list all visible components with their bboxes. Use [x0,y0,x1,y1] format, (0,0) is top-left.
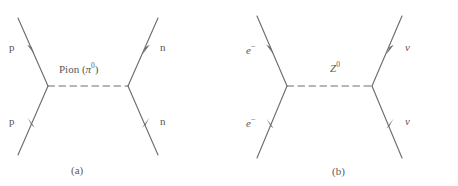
panel-b-lines [229,0,458,186]
panel-caption-a: (a) [71,165,83,176]
fermion-line-upper-right [128,18,158,86]
fermion-line-lower-left [18,86,48,155]
propagator-label-pion: Pion (π0) [59,62,99,75]
fermion-line-upper-right [372,16,402,86]
propagator-label-pion-suffix: ) [95,63,99,75]
panel-caption-b: (b) [332,166,345,177]
particle-label-electron-lower-left: e− [246,115,256,129]
panel-a-lines [0,0,229,186]
diagram-panel-b: e− e− ν ν Z0 (b) [229,0,458,186]
fermion-line-lower-right [372,86,402,158]
particle-label-electron-upper-left: e− [246,42,256,56]
diagram-panel-a: p p n n Pion (π0) (a) [0,0,229,186]
feynman-diagram-figure: p p n n Pion (π0) (a) e− e− ν [0,0,458,186]
particle-label-n-lower-right: n [160,116,166,127]
propagator-label-z0: Z0 [330,61,340,74]
particle-label-neutrino-lower-right: ν [405,116,410,127]
propagator-label-z0-charge: 0 [336,60,340,69]
particle-label-electron-upper-left-charge: − [251,41,256,51]
fermion-line-lower-right [128,86,158,155]
particle-label-neutrino-upper-right: ν [405,42,410,53]
particle-label-electron-lower-left-charge: − [251,114,256,124]
propagator-label-pion-prefix: Pion ( [59,63,86,75]
particle-label-p-upper-left: p [9,42,15,53]
fermion-line-lower-left [257,86,287,158]
particle-label-p-lower-left: p [9,116,15,127]
particle-label-n-upper-right: n [160,42,166,53]
